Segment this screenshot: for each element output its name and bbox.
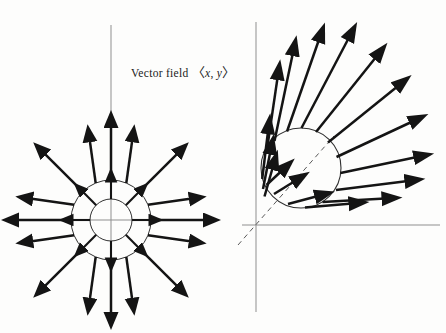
vector-field-figure: Vector field 〈x, y〉 <box>0 0 446 333</box>
figure-caption: Vector field 〈x, y〉 <box>131 62 236 81</box>
caption-comma: , <box>210 67 213 79</box>
angle-bracket-open-icon: 〈 <box>192 65 205 80</box>
right-panel-shifted-circle <box>238 22 440 312</box>
vector-field-canvas <box>0 0 446 333</box>
caption-label: Vector field <box>131 67 189 79</box>
angle-bracket-close-icon: 〉 <box>222 65 235 80</box>
right-panel-vectors <box>262 38 417 208</box>
right-panel-dashed-line <box>238 136 334 245</box>
